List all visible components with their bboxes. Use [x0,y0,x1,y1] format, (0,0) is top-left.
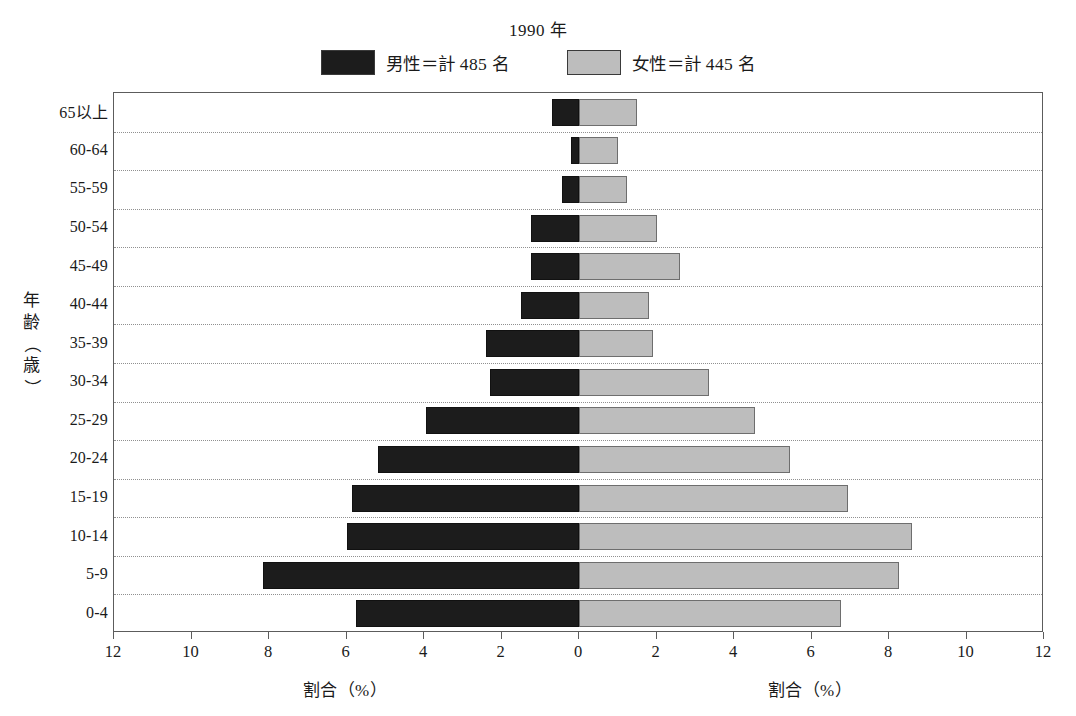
bar-female[interactable] [579,562,899,589]
bar-male[interactable] [263,562,579,589]
gridline [114,440,1042,441]
x-axis-tick-label: 6 [341,642,349,662]
x-axis-tick-label: 8 [264,642,272,662]
x-axis-tick [656,632,657,639]
y-axis-tick-label: 0-4 [4,604,108,622]
x-axis-tick [268,632,269,639]
bar-row [114,137,1042,164]
x-axis-tick-label: 4 [729,642,737,662]
bar-row [114,523,1042,550]
bar-row [114,562,1042,589]
x-axis-tick [1043,632,1044,639]
x-axis-tick-label: 4 [419,642,427,662]
y-axis-tick-labels: 0-45-910-1415-1920-2425-2930-3435-3940-4… [0,92,108,632]
bar-male[interactable] [426,407,579,434]
gridline [114,324,1042,325]
bar-row [114,485,1042,512]
bar-male[interactable] [378,446,580,473]
gridline [114,479,1042,480]
x-axis-tick-labels: 12108642024681012 [113,642,1043,664]
bar-male[interactable] [531,253,579,280]
bar-female[interactable] [579,215,657,242]
bar-male[interactable] [552,99,579,126]
bar-male[interactable] [356,600,579,627]
bar-female[interactable] [579,99,637,126]
x-axis-tick-label: 0 [574,642,582,662]
x-axis-tick [191,632,192,639]
bar-female[interactable] [579,369,709,396]
x-axis-tick-label: 12 [1035,642,1052,662]
gridline [114,556,1042,557]
gridline [114,402,1042,403]
y-axis-tick-label: 20-24 [4,449,108,467]
x-axis-tick [423,632,424,639]
bar-female[interactable] [579,600,841,627]
bar-row [114,215,1042,242]
bar-male[interactable] [352,485,579,512]
gridline [114,363,1042,364]
legend-label-male: 男性＝計 485 名 [386,50,509,75]
bar-male[interactable] [486,330,579,357]
chart-legend: 男性＝計 485 名 女性＝計 445 名 [0,50,1076,75]
y-axis-tick-label: 50-54 [4,218,108,236]
gridline [114,517,1042,518]
bar-male[interactable] [521,292,579,319]
x-axis-ticks [113,632,1043,640]
y-axis-tick-label: 35-39 [4,334,108,352]
x-axis-tick [888,632,889,639]
y-axis-tick-label: 30-34 [4,372,108,390]
bar-male[interactable] [531,215,579,242]
legend-item-female: 女性＝計 445 名 [567,50,755,75]
bar-row [114,176,1042,203]
gridline [114,286,1042,287]
y-axis-tick-label: 65以上 [4,99,108,123]
y-axis-tick-label: 45-49 [4,257,108,275]
x-axis-tick-label: 12 [105,642,122,662]
gridline [114,132,1042,133]
y-axis-tick-label: 5-9 [4,565,108,583]
y-axis-tick-label: 10-14 [4,527,108,545]
gridline [114,247,1042,248]
chart-title: 1990 年 [0,16,1076,41]
bar-row [114,600,1042,627]
bar-female[interactable] [579,292,649,319]
plot-inner [114,93,1042,631]
plot-area [113,92,1043,632]
bar-female[interactable] [579,523,912,550]
bar-female[interactable] [579,485,848,512]
bar-male[interactable] [490,369,579,396]
bar-female[interactable] [579,407,755,434]
y-axis-tick-label: 25-29 [4,411,108,429]
x-axis-tick-label: 2 [496,642,504,662]
gridline [114,594,1042,595]
bar-row [114,369,1042,396]
bar-male[interactable] [347,523,580,550]
x-axis-tick [113,632,114,639]
x-axis-tick [346,632,347,639]
bar-male[interactable] [571,137,579,164]
legend-item-male: 男性＝計 485 名 [321,50,509,75]
gridline [114,170,1042,171]
bar-female[interactable] [579,330,653,357]
bar-female[interactable] [579,176,627,203]
legend-swatch-female-icon [567,50,621,75]
x-axis-tick-label: 8 [884,642,892,662]
y-axis-tick-label: 55-59 [4,179,108,197]
bar-female[interactable] [579,253,680,280]
x-axis-tick-label: 6 [806,642,814,662]
x-axis-tick [578,632,579,639]
bar-row [114,446,1042,473]
bar-row [114,330,1042,357]
bar-row [114,292,1042,319]
bar-female[interactable] [579,137,618,164]
x-axis-title-right: 割合（%） [768,676,852,701]
x-axis-tick-label: 10 [182,642,199,662]
x-axis-tick [966,632,967,639]
x-axis-tick [501,632,502,639]
bar-male[interactable] [562,176,579,203]
bar-female[interactable] [579,446,790,473]
bar-row [114,253,1042,280]
bar-row [114,407,1042,434]
x-axis-tick [811,632,812,639]
x-axis-tick [733,632,734,639]
